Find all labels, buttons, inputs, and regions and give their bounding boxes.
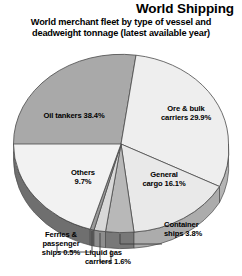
pie-label-liquid-gas: Liquid gas carriers 1.6% xyxy=(85,248,155,266)
pie-label-container-ships: Container ships 3.8% xyxy=(164,220,236,238)
pie-label-ferries-passenger: Ferries & passenger ships 0.5% xyxy=(31,230,91,258)
chart-page: World Shipping World merchant fleet by t… xyxy=(0,0,242,276)
pie-top-face xyxy=(13,54,228,232)
pie-label-ore-bulk: Ore & bulk carriers 29.9% xyxy=(146,104,226,122)
pie-label-general-cargo: General cargo 16.1% xyxy=(128,170,200,188)
pie-label-oil-tankers: Oil tankers 38.4% xyxy=(28,111,120,120)
pie-label-others: Others 9.7% xyxy=(56,168,110,186)
